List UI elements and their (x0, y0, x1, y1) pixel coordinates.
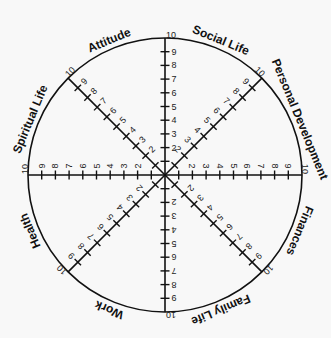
category-label-work: Work (92, 298, 125, 322)
tick-label: 2 (133, 163, 143, 168)
wheel-of-life-chart: 2345678910234567891023456789102345678910… (0, 0, 331, 338)
tick-label: 2 (187, 163, 197, 168)
tick-label: 5 (171, 102, 176, 112)
tick-label: 4 (171, 115, 176, 125)
tick-label: 7 (171, 74, 176, 84)
tick-label: 9 (171, 47, 176, 57)
tick-label: 8 (270, 163, 280, 168)
spokes: 2345678910234567891023456789102345678910… (20, 30, 310, 320)
tick-label: 5 (229, 163, 239, 168)
tick-label: 10 (63, 65, 77, 79)
tick-label: 9 (283, 163, 293, 168)
tick-label: 6 (78, 163, 88, 168)
tick-label: 10 (55, 263, 69, 277)
tick-label: 6 (242, 163, 252, 168)
category-label-spiritual-life: Spiritual Life (10, 83, 51, 156)
tick-label: 4 (171, 225, 176, 235)
tick-label: 10 (166, 310, 176, 320)
tick-label: 3 (171, 211, 176, 221)
category-label-social-life: Social Life (190, 22, 251, 58)
tick-label: 9 (37, 163, 47, 168)
tick-label: 5 (92, 163, 102, 168)
tick-label: 10 (253, 65, 267, 79)
tick-label: 3 (201, 163, 211, 168)
tick-label: 3 (171, 129, 176, 139)
tick-label: 10 (20, 164, 30, 174)
tick-label: 8 (171, 280, 176, 290)
tick-label: 8 (171, 60, 176, 70)
tick-label: 7 (256, 163, 266, 168)
tick-label: 9 (171, 293, 176, 303)
tick-label: 10 (300, 164, 310, 174)
tick-label: 8 (50, 163, 60, 168)
tick-label: 4 (215, 163, 225, 168)
tick-label: 4 (105, 163, 115, 168)
tick-label: 6 (171, 88, 176, 98)
tick-label: 10 (166, 30, 176, 40)
category-label-family-life: Family Life (189, 291, 253, 328)
tick-label: 7 (171, 266, 176, 276)
tick-label: 10 (261, 263, 275, 277)
tick-label: 5 (171, 239, 176, 249)
tick-label: 3 (119, 163, 129, 168)
tick-label: 6 (171, 252, 176, 262)
category-label-finances: Finances (283, 204, 316, 258)
tick-label: 2 (171, 197, 176, 207)
tick-label: 7 (64, 163, 74, 168)
